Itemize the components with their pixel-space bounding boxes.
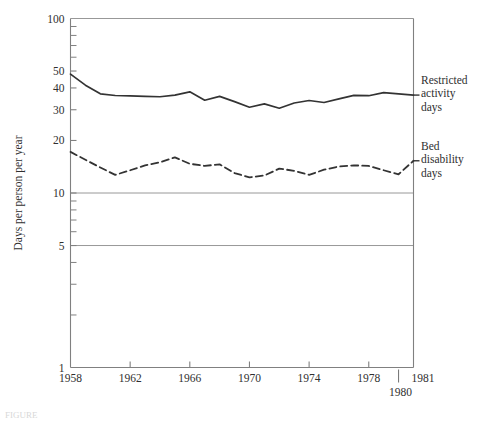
y-axis-title: Days per person per year: [12, 135, 25, 250]
x-axis-tick-labels: 19581962196619701974197819811980: [59, 372, 435, 398]
y-tick-label: 40: [53, 82, 65, 94]
line-chart: 100504030201051 195819621966197019741978…: [0, 0, 497, 423]
series-line-restricted-activity-days: [71, 74, 414, 108]
label-leader-lines: [414, 95, 420, 161]
data-series-group: [71, 74, 414, 177]
figure-container: 100504030201051 195819621966197019741978…: [0, 0, 497, 423]
y-axis-ticks: [71, 26, 77, 314]
x-tick-label: 1966: [178, 372, 201, 384]
series-label-restricted-activity-days: Restricted activity days: [421, 74, 468, 114]
x-tick-label: 1958: [59, 372, 82, 384]
x-tick-label: 1974: [298, 372, 321, 384]
series-label-bed-disability-days: Bed disability days: [421, 140, 464, 180]
x-tick-label: 1981: [412, 372, 435, 384]
y-tick-label: 5: [59, 240, 65, 252]
x-tick-label-1980: 1980: [389, 386, 412, 398]
y-axis-tick-labels: 100504030201051: [47, 13, 65, 374]
y-tick-label: 50: [53, 65, 65, 77]
x-tick-label: 1962: [119, 372, 142, 384]
y-tick-label: 20: [53, 134, 65, 146]
figure-caption: FIGURE: [5, 410, 492, 422]
y-tick-label: 10: [53, 187, 65, 199]
x-tick-label: 1970: [238, 372, 261, 384]
gridline-group: [71, 193, 414, 246]
y-axis-title-text: Days per person per year: [12, 135, 25, 250]
y-tick-label: 30: [53, 104, 65, 116]
x-tick-label: 1978: [357, 372, 380, 384]
series-line-bed-disability-days: [71, 152, 414, 177]
y-tick-label: 100: [47, 13, 65, 25]
